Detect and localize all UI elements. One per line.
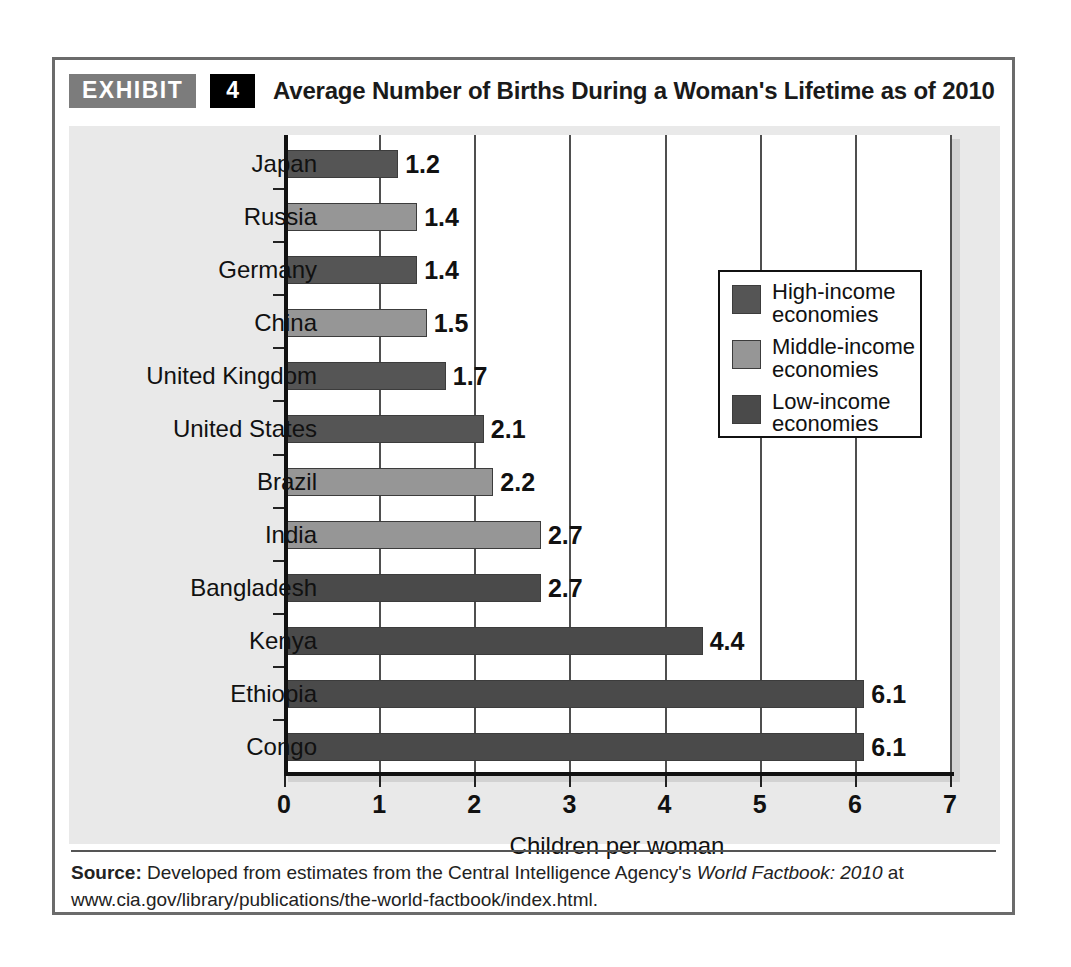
category-label-kenya: Kenya	[249, 627, 317, 655]
bar-value-label: 4.4	[710, 627, 745, 655]
y-tick-mark	[273, 719, 284, 721]
x-tick-label: 6	[835, 790, 875, 819]
bar-value-label: 1.4	[424, 256, 459, 284]
x-tick-mark	[950, 776, 952, 787]
gridline	[950, 135, 952, 772]
y-tick-mark	[273, 454, 284, 456]
bar-value-label: 1.2	[405, 150, 440, 178]
y-tick-mark	[273, 347, 284, 349]
x-tick-mark	[760, 776, 762, 787]
x-axis-title: Children per woman	[284, 832, 950, 860]
y-tick-mark	[273, 400, 284, 402]
exhibit-page: EXHIBIT 4 Average Number of Births Durin…	[0, 0, 1071, 967]
bar-value-label: 1.7	[453, 362, 488, 390]
category-label-india: India	[265, 521, 317, 549]
x-tick-mark	[569, 776, 571, 787]
y-tick-mark	[273, 241, 284, 243]
exhibit-number-badge: 4	[210, 74, 255, 108]
legend-label: High-income economies	[772, 281, 920, 327]
x-tick-label: 3	[549, 790, 589, 819]
chart-region: 1.2Japan1.4Russia1.4Germany1.5China1.7Un…	[69, 126, 1000, 844]
legend-label: Middle-income economies	[772, 336, 920, 382]
y-tick-mark	[273, 613, 284, 615]
category-label-congo: Congo	[246, 733, 317, 761]
source-label: Source:	[71, 862, 142, 883]
category-label-bangladesh: Bangladesh	[190, 574, 317, 602]
x-tick-label: 0	[264, 790, 304, 819]
x-tick-mark	[284, 776, 286, 787]
bar-value-label: 6.1	[871, 680, 906, 708]
source-divider	[71, 850, 996, 852]
x-tick-mark	[379, 776, 381, 787]
bar-congo	[284, 733, 864, 761]
y-tick-mark	[273, 560, 284, 562]
x-tick-mark	[474, 776, 476, 787]
legend-swatch-icon	[732, 340, 761, 369]
bar-ethiopia	[284, 680, 864, 708]
category-label-ethiopia: Ethiopia	[230, 680, 317, 708]
gridline	[474, 135, 476, 772]
y-tick-mark	[273, 294, 284, 296]
x-tick-label: 7	[930, 790, 970, 819]
bar-value-label: 2.7	[548, 521, 583, 549]
x-axis-line	[284, 772, 954, 776]
category-label-united-kingdom: United Kingdom	[146, 362, 317, 390]
bar-value-label: 2.2	[500, 468, 535, 496]
y-tick-mark	[273, 188, 284, 190]
bar-india	[284, 521, 541, 549]
bar-value-label: 2.7	[548, 574, 583, 602]
source-title-italic: World Factbook: 2010	[697, 862, 883, 883]
source-note: Source: Developed from estimates from th…	[71, 860, 999, 914]
x-tick-mark	[665, 776, 667, 787]
bar-bangladesh	[284, 574, 541, 602]
y-axis-line	[284, 135, 288, 776]
exhibit-frame: EXHIBIT 4 Average Number of Births Durin…	[52, 57, 1015, 915]
y-tick-mark	[273, 666, 284, 668]
x-tick-label: 5	[740, 790, 780, 819]
category-label-germany: Germany	[218, 256, 317, 284]
legend-label: Low-income economies	[772, 391, 920, 437]
y-tick-mark	[273, 507, 284, 509]
legend-swatch-icon	[732, 285, 761, 314]
bar-kenya	[284, 627, 703, 655]
category-label-united-states: United States	[173, 415, 317, 443]
gridline	[569, 135, 571, 772]
gridline	[760, 135, 762, 772]
x-tick-mark	[855, 776, 857, 787]
gridline	[855, 135, 857, 772]
x-tick-label: 2	[454, 790, 494, 819]
category-label-russia: Russia	[244, 203, 317, 231]
exhibit-header: EXHIBIT 4 Average Number of Births Durin…	[55, 60, 1012, 122]
x-tick-label: 1	[359, 790, 399, 819]
legend-swatch-icon	[732, 395, 761, 424]
bar-value-label: 1.5	[434, 309, 469, 337]
bar-value-label: 1.4	[424, 203, 459, 231]
gridline	[665, 135, 667, 772]
source-text-before: Developed from estimates from the Centra…	[142, 862, 697, 883]
legend-item-high: High-income economies	[732, 281, 920, 327]
page-title: Average Number of Births During a Woman'…	[273, 77, 995, 105]
legend-item-middle: Middle-income economies	[732, 336, 920, 382]
x-tick-label: 4	[645, 790, 685, 819]
legend-item-low: Low-income economies	[732, 391, 920, 437]
chart-legend: High-income economies Middle-income econ…	[718, 270, 922, 438]
bar-value-label: 2.1	[491, 415, 526, 443]
exhibit-badge: EXHIBIT	[69, 74, 196, 108]
bar-value-label: 6.1	[871, 733, 906, 761]
